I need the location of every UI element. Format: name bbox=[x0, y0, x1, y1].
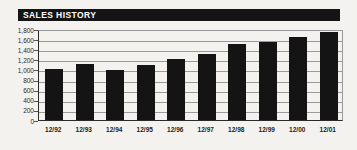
bar-12-92 bbox=[45, 69, 63, 120]
chart-title: SALES HISTORY bbox=[18, 9, 96, 21]
bar-12-97 bbox=[198, 54, 216, 120]
chart-title-bar: SALES HISTORY bbox=[18, 9, 340, 21]
x-tick-label: 12/92 bbox=[38, 126, 69, 133]
bar-12-98 bbox=[228, 44, 246, 120]
x-tick-label: 12/94 bbox=[99, 126, 130, 133]
y-tick-label: 1,000 bbox=[0, 68, 34, 74]
x-tick-label: 12/95 bbox=[130, 126, 161, 133]
plot-area bbox=[38, 30, 343, 121]
y-tick-label: 1,600 bbox=[0, 38, 34, 44]
bar-12-93 bbox=[76, 64, 94, 120]
bar-12-94 bbox=[106, 70, 124, 120]
y-tick-label: 1,400 bbox=[0, 48, 34, 54]
bar-12-01 bbox=[320, 32, 338, 120]
bar-12-96 bbox=[167, 59, 185, 120]
y-tick-label: 0 bbox=[0, 119, 34, 125]
x-tick-label: 12/96 bbox=[160, 126, 191, 133]
bar-12-99 bbox=[259, 42, 277, 120]
x-tick-label: 12/98 bbox=[221, 126, 252, 133]
y-tick-label: 400 bbox=[0, 98, 34, 104]
x-tick-label: 12/00 bbox=[282, 126, 313, 133]
bar-12-95 bbox=[137, 65, 155, 120]
bar-12-00 bbox=[289, 37, 307, 120]
y-tick-mark bbox=[34, 121, 38, 122]
x-tick-label: 12/01 bbox=[313, 126, 344, 133]
sales-history-chart: SALES HISTORY 02004006008001,0001,2001,4… bbox=[0, 0, 357, 150]
y-tick-label: 1,200 bbox=[0, 58, 34, 64]
y-tick-label: 1,800 bbox=[0, 28, 34, 34]
y-tick-label: 600 bbox=[0, 88, 34, 94]
x-tick-label: 12/99 bbox=[252, 126, 283, 133]
x-tick-label: 12/97 bbox=[191, 126, 222, 133]
x-tick-label: 12/93 bbox=[69, 126, 100, 133]
y-tick-label: 800 bbox=[0, 78, 34, 84]
page: SALES HISTORY 02004006008001,0001,2001,4… bbox=[0, 0, 357, 150]
y-tick-label: 200 bbox=[0, 108, 34, 114]
